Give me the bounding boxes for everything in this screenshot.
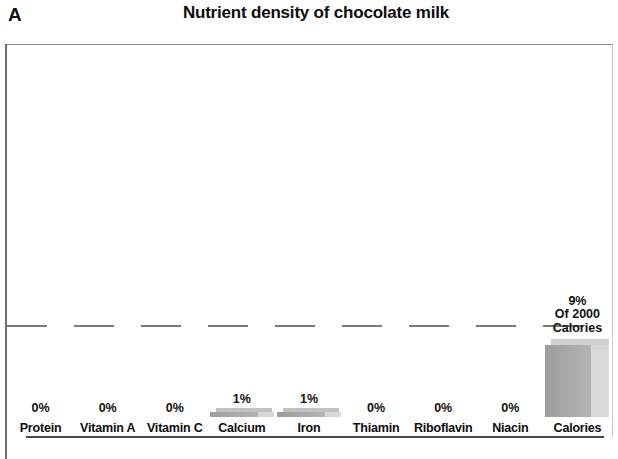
bar-group-calories: 9% Of 2000 Calories Calories [544, 45, 611, 437]
category-label-riboflavin: Riboflavin [414, 420, 472, 437]
value-label-protein: 0% [32, 402, 50, 416]
bar-group-calcium: 1% Calcium [208, 45, 275, 437]
category-label-vitamin-c: Vitamin C [147, 420, 203, 437]
value-label-calcium: 1% [233, 393, 251, 407]
bar-wrap-iron [275, 408, 342, 417]
value-label-thiamin: 0% [367, 402, 385, 416]
bar-calcium [210, 408, 274, 417]
chart-title: Nutrient density of chocolate milk [0, 3, 618, 23]
plot-area: 0% Protein 0% Vitamin A 0% Vitamin C 1% [7, 45, 611, 437]
bar-group-vitamin-c: 0% Vitamin C [141, 45, 208, 437]
category-label-niacin: Niacin [492, 420, 528, 437]
value-label-riboflavin: 0% [434, 402, 452, 416]
category-group: 0% Protein 0% Vitamin A 0% Vitamin C 1% [7, 45, 611, 437]
bar-calories [545, 339, 609, 417]
bar-group-riboflavin: 0% Riboflavin [410, 45, 477, 437]
value-label-iron: 1% [300, 393, 318, 407]
category-label-vitamin-a: Vitamin A [80, 420, 135, 437]
bar-wrap-calories [544, 339, 611, 417]
value-label-calories: 9% Of 2000 Calories [553, 295, 602, 336]
bar-wrap-calcium [208, 408, 275, 417]
category-label-iron: Iron [298, 420, 321, 437]
value-label-vitamin-c: 0% [166, 402, 184, 416]
category-label-thiamin: Thiamin [353, 420, 400, 437]
category-label-calories: Calories [554, 420, 602, 437]
bar-group-iron: 1% Iron [275, 45, 342, 437]
bar-group-protein: 0% Protein [7, 45, 74, 437]
category-label-calcium: Calcium [218, 420, 265, 437]
bar-group-niacin: 0% Niacin [477, 45, 544, 437]
x-axis-rule [26, 436, 604, 438]
bar-group-vitamin-a: 0% Vitamin A [74, 45, 141, 437]
bar-iron [277, 408, 341, 417]
bar-group-thiamin: 0% Thiamin [343, 45, 410, 437]
category-label-protein: Protein [20, 420, 62, 437]
value-label-vitamin-a: 0% [99, 402, 117, 416]
value-label-niacin: 0% [501, 402, 519, 416]
